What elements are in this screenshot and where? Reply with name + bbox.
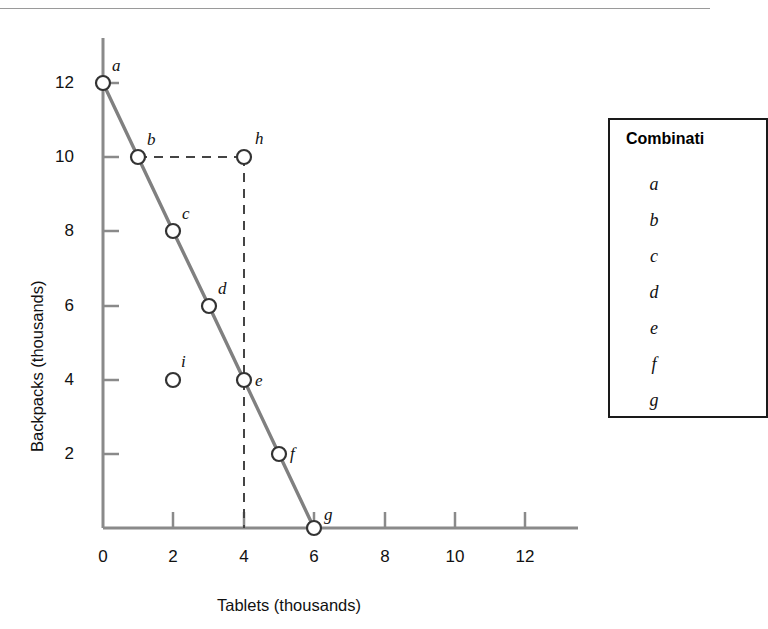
table-row[interactable]: b [610,202,766,238]
point-label-d: d [218,279,227,299]
x-tick-label-10: 10 [440,547,470,567]
point-marker-c[interactable] [166,224,180,238]
x-tick-label-12: 12 [510,547,540,567]
cell-combination: b [610,210,698,231]
y-tick-label-12: 12 [44,73,74,93]
cell-combination: g [610,390,698,411]
x-axis-title: Tablets (thousands) [0,596,578,615]
frontier-markers [96,76,321,535]
point-marker-g[interactable] [307,521,321,535]
y-tick-label-4: 4 [44,370,74,390]
cell-combination: e [610,318,698,339]
cell-combination: a [610,174,698,195]
point-marker-h[interactable] [237,150,251,164]
table-row[interactable]: d [610,274,766,310]
point-marker-d[interactable] [202,299,216,313]
point-label-f: f [290,444,295,464]
chart-canvas [0,0,600,629]
x-tick-label-6: 6 [299,547,329,567]
y-tick-label-6: 6 [44,296,74,316]
cell-combination: f [610,354,698,375]
point-marker-f[interactable] [272,447,286,461]
point-label-a: a [112,56,121,76]
point-label-c: c [182,204,190,224]
y-tick-label-8: 8 [44,221,74,241]
table-row[interactable]: g [610,382,766,418]
point-marker-i[interactable] [166,373,180,387]
table-row[interactable]: f [610,346,766,382]
cell-combination: c [610,246,698,267]
table-row[interactable]: a [610,166,766,202]
y-axis-title: Backpacks (thousands) [28,280,47,452]
column-header-combination: Combinati [610,130,704,148]
x-tick-label-8: 8 [370,547,400,567]
table-row[interactable]: e [610,310,766,346]
x-tick-label-4: 4 [229,547,259,567]
y-tick-label-2: 2 [44,444,74,464]
point-label-g: g [324,505,333,525]
extra-markers [166,150,251,387]
x-tick-label-2: 2 [158,547,188,567]
point-label-b: b [147,130,156,150]
table-body: a b c d e f g [610,166,766,418]
y-tick-marks [103,83,119,454]
point-label-i: i [181,352,186,372]
x-tick-label-0: 0 [88,547,118,567]
point-label-h: h [255,129,264,149]
combination-table: Combinati a b c d e f g [608,118,768,418]
table-row[interactable]: c [610,238,766,274]
y-tick-label-10: 10 [44,147,74,167]
point-marker-e[interactable] [237,373,251,387]
point-marker-b[interactable] [131,150,145,164]
point-marker-a[interactable] [96,76,110,90]
ppf-chart: 12 10 8 6 4 2 0 2 4 6 8 10 12 a b c d e … [0,0,600,629]
x-tick-marks [173,512,525,528]
point-label-e: e [255,371,263,391]
cell-combination: d [610,282,698,303]
table-header-row: Combinati [610,130,766,148]
